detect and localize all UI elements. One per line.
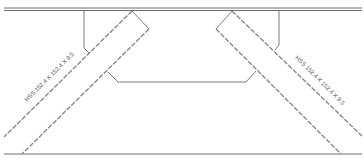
gusset-plate-bottom — [108, 71, 256, 82]
right-brace — [216, 11, 362, 154]
drawing-canvas: HSS 152.4 X 152.4 X 9.5 HSS 152.4 X 152.… — [0, 0, 364, 160]
gusset-plate-right — [275, 11, 279, 51]
gusset-plate — [84, 11, 89, 54]
left-brace — [4, 11, 149, 154]
left-brace-label: HSS 152.4 X 152.4 X 9.5 — [23, 51, 75, 103]
top-beam — [4, 8, 362, 11]
right-brace-label: HSS 152.4 X 152.4 X 9.5 — [294, 54, 346, 106]
connection-detail-drawing: HSS 152.4 X 152.4 X 9.5 HSS 152.4 X 152.… — [0, 0, 364, 160]
